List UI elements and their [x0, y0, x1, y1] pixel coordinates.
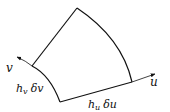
- right-edge: [77, 8, 132, 82]
- curvilinear-element-diagram: v u hvδv huδu: [0, 0, 170, 112]
- v-axis-label: v: [6, 61, 13, 75]
- bottom-edge: [60, 82, 132, 102]
- top-left-edge: [32, 8, 77, 66]
- u-axis-label: u: [150, 75, 158, 89]
- v-axis-arrow: [17, 57, 32, 66]
- left-edge-length-label: hvδv: [16, 82, 44, 96]
- bottom-edge-length-label: huδu: [88, 98, 117, 112]
